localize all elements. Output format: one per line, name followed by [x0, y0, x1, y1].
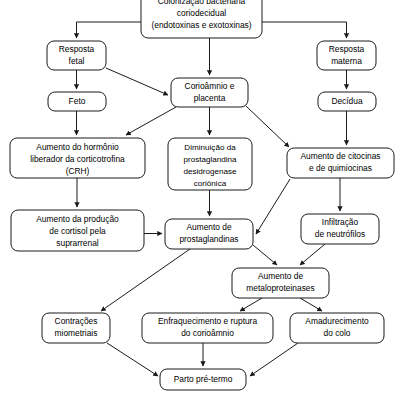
edge-amadurecimento-parto — [250, 343, 298, 376]
node-citocinas[interactable]: Aumento de citocinas e de quimiocinas — [287, 148, 394, 178]
flowchart-container: Colonização bacteriana coriodecidual (en… — [0, 0, 402, 395]
edge-prostaglandinas-metaloproteinases — [253, 245, 277, 265]
node-resposta-fetal-line-0: Resposta — [59, 44, 95, 54]
node-colonizacao-line-1: coriodecidual — [177, 8, 226, 18]
node-corioamnio-placenta-line-0: Corioâmnio e — [185, 81, 235, 91]
node-enfraquecimento[interactable]: Enfraquecimento e ruptura do corioâmnio — [142, 313, 273, 343]
node-amadurecimento-line-0: Amadurecimento — [305, 316, 369, 326]
node-feto[interactable]: Feto — [48, 92, 106, 111]
node-feto-line-0: Feto — [69, 96, 86, 106]
edge-corioamnio-citocinas — [246, 106, 289, 147]
node-corioamnio-placenta[interactable]: Corioâmnio e placenta — [171, 78, 248, 107]
node-prostaglandina-desidrogenase-line-2: desidrogenase — [183, 167, 237, 176]
node-metaloproteinases[interactable]: Aumento de metaloproteinases — [232, 268, 329, 298]
edge-resposta-fetal-corioamnio — [106, 68, 168, 95]
node-crh-line-1: liberador da corticotrofina — [30, 154, 125, 164]
node-layer: Colonização bacteriana coriodecidual (en… — [10, 0, 394, 390]
edge-metaloproteinases-enfraquecimento — [240, 298, 262, 311]
node-neutrofilos-line-0: Infiltração — [322, 217, 359, 227]
node-enfraquecimento-line-0: Enfraquecimento e ruptura — [158, 316, 258, 326]
node-parto-pre-termo[interactable]: Parto pré-termo — [160, 369, 246, 390]
node-corioamnio-placenta-line-1: placenta — [194, 93, 226, 103]
node-prostaglandina-desidrogenase-line-0: Diminuição da — [184, 143, 236, 152]
node-crh-line-2: (CRH) — [66, 166, 90, 176]
edge-colonizacao-resposta-materna — [262, 22, 347, 38]
node-colonizacao-line-2: (endotoxinas e exotoxinas) — [151, 20, 251, 30]
node-resposta-materna-line-0: Resposta — [329, 44, 365, 54]
edge-neutrofilos-metaloproteinases — [300, 244, 325, 265]
node-citocinas-line-1: e de quimiocinas — [309, 163, 372, 173]
node-decidua-line-0: Decídua — [331, 96, 363, 106]
node-citocinas-line-0: Aumento de citocinas — [300, 151, 380, 161]
node-resposta-fetal[interactable]: Resposta fetal — [47, 41, 106, 70]
node-contracoes[interactable]: Contrações miometriais — [42, 313, 110, 343]
node-contracoes-line-0: Contrações — [55, 316, 98, 326]
node-neutrofilos[interactable]: Infiltração de neutrófilos — [301, 214, 379, 244]
node-crh[interactable]: Aumento do hormônio liberador da cortico… — [10, 138, 145, 178]
node-prostaglandina-desidrogenase-line-3: coriônica — [194, 179, 227, 188]
edge-colonizacao-resposta-fetal — [77, 22, 142, 38]
node-crh-line-0: Aumento do hormônio — [36, 142, 119, 152]
node-amadurecimento[interactable]: Amadurecimento do colo — [290, 313, 384, 343]
node-decidua[interactable]: Decídua — [318, 92, 376, 111]
node-prostaglandinas-line-1: prostaglandinas — [179, 234, 238, 244]
edge-citocinas-prostaglandinas — [256, 179, 290, 234]
node-prostaglandinas[interactable]: Aumento de prostaglandinas — [165, 219, 253, 249]
edge-prostaglandinas-contracoes — [101, 249, 190, 311]
node-amadurecimento-line-1: do colo — [323, 328, 350, 338]
node-cortisol-line-1: de cortisol pela — [49, 226, 106, 236]
edge-corioamnio-crh — [126, 107, 176, 135]
node-cortisol-line-0: Aumento da produção — [36, 214, 119, 224]
node-metaloproteinases-line-0: Aumento de — [258, 271, 304, 281]
node-neutrofilos-line-1: de neutrófilos — [315, 229, 365, 239]
node-prostaglandina-desidrogenase[interactable]: Diminuição da prostaglandina desidrogena… — [168, 138, 252, 190]
node-cortisol-line-2: suprarrenal — [56, 238, 99, 248]
flowchart-svg: Colonização bacteriana coriodecidual (en… — [0, 0, 402, 395]
node-parto-pre-termo-line-0: Parto pré-termo — [174, 374, 233, 384]
node-cortisol[interactable]: Aumento da produção de cortisol pela sup… — [11, 210, 144, 251]
node-metaloproteinases-line-1: metaloproteinases — [246, 283, 314, 293]
node-colonizacao[interactable]: Colonização bacteriana coriodecidual (en… — [141, 0, 262, 38]
node-prostaglandina-desidrogenase-line-1: prostaglandina — [183, 155, 237, 164]
node-prostaglandinas-line-0: Aumento de — [186, 222, 232, 232]
edge-metaloproteinases-amadurecimento — [300, 298, 322, 311]
node-contracoes-line-1: miometriais — [55, 328, 98, 338]
node-resposta-materna-line-1: materna — [331, 56, 362, 66]
node-resposta-fetal-line-1: fetal — [69, 56, 85, 66]
node-enfraquecimento-line-1: do corioâmnio — [181, 328, 234, 338]
node-colonizacao-line-0: Colonização bacteriana — [158, 0, 246, 6]
node-resposta-materna[interactable]: Resposta materna — [317, 41, 376, 70]
edge-contracoes-parto — [107, 343, 158, 376]
